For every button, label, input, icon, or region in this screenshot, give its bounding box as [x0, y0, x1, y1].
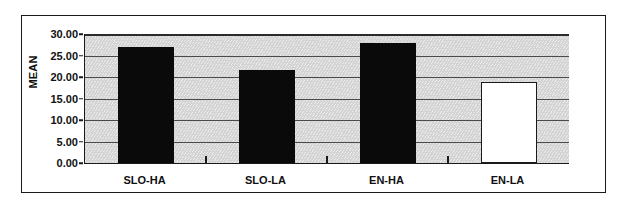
y-tick-mark	[79, 141, 83, 143]
y-tick-mark	[79, 162, 83, 164]
bar-slo-la	[239, 70, 295, 163]
gridline	[85, 34, 569, 36]
x-category-label: EN-HA	[369, 174, 404, 186]
y-tick-mark	[79, 119, 83, 121]
plot-area	[84, 34, 569, 164]
bar-en-ha	[360, 43, 416, 163]
x-category-label: EN-LA	[491, 174, 525, 186]
x-category-label: SLO-HA	[123, 174, 165, 186]
y-tick-mark	[79, 33, 83, 35]
x-category-label: SLO-LA	[245, 174, 286, 186]
y-tick-label: 0.00	[34, 157, 78, 169]
y-tick-label: 15.00	[34, 93, 78, 105]
y-tick-label: 10.00	[34, 114, 78, 126]
x-category-tick	[447, 156, 449, 163]
y-tick-label: 25.00	[34, 50, 78, 62]
x-category-tick	[205, 156, 207, 163]
y-tick-mark	[79, 98, 83, 100]
y-tick-label: 30.00	[34, 28, 78, 40]
y-tick-label: 5.00	[34, 136, 78, 148]
bar-en-la	[481, 82, 537, 163]
bar-chart-figure: MEAN 30.0025.0020.0015.0010.005.000.00 S…	[0, 0, 626, 208]
y-tick-label: 20.00	[34, 71, 78, 83]
y-tick-mark	[79, 55, 83, 57]
bar-slo-ha	[118, 47, 174, 163]
y-axis-tick-labels: 30.0025.0020.0015.0010.005.000.00	[34, 0, 78, 208]
x-category-tick	[326, 156, 328, 163]
y-tick-mark	[79, 76, 83, 78]
